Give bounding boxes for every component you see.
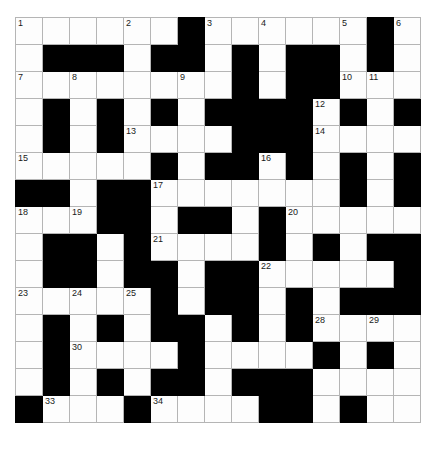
crossword-cell[interactable]: 21 bbox=[151, 234, 178, 261]
crossword-cell[interactable] bbox=[394, 72, 421, 99]
crossword-cell[interactable] bbox=[70, 99, 97, 126]
crossword-cell[interactable] bbox=[70, 18, 97, 45]
crossword-cell[interactable] bbox=[394, 396, 421, 423]
crossword-cell[interactable] bbox=[259, 72, 286, 99]
crossword-cell[interactable] bbox=[205, 396, 232, 423]
crossword-cell[interactable] bbox=[178, 396, 205, 423]
crossword-cell[interactable] bbox=[367, 126, 394, 153]
crossword-cell[interactable] bbox=[97, 18, 124, 45]
crossword-cell[interactable] bbox=[232, 207, 259, 234]
crossword-cell[interactable]: 3 bbox=[205, 18, 232, 45]
crossword-cell[interactable] bbox=[151, 126, 178, 153]
crossword-cell[interactable] bbox=[43, 72, 70, 99]
crossword-cell[interactable] bbox=[394, 342, 421, 369]
crossword-cell[interactable] bbox=[367, 180, 394, 207]
crossword-cell[interactable] bbox=[178, 288, 205, 315]
crossword-cell[interactable]: 10 bbox=[340, 72, 367, 99]
crossword-cell[interactable] bbox=[70, 126, 97, 153]
crossword-cell[interactable] bbox=[43, 288, 70, 315]
crossword-cell[interactable] bbox=[70, 153, 97, 180]
crossword-cell[interactable] bbox=[178, 126, 205, 153]
crossword-cell[interactable] bbox=[124, 45, 151, 72]
crossword-cell[interactable] bbox=[97, 396, 124, 423]
crossword-cell[interactable]: 16 bbox=[259, 153, 286, 180]
crossword-cell[interactable]: 29 bbox=[367, 315, 394, 342]
crossword-cell[interactable] bbox=[205, 180, 232, 207]
crossword-cell[interactable]: 33 bbox=[43, 396, 70, 423]
crossword-cell[interactable] bbox=[178, 234, 205, 261]
crossword-cell[interactable] bbox=[232, 18, 259, 45]
crossword-cell[interactable] bbox=[259, 288, 286, 315]
crossword-cell[interactable] bbox=[97, 153, 124, 180]
crossword-cell[interactable] bbox=[205, 315, 232, 342]
crossword-cell[interactable] bbox=[286, 180, 313, 207]
crossword-cell[interactable] bbox=[286, 234, 313, 261]
crossword-cell[interactable]: 20 bbox=[286, 207, 313, 234]
crossword-cell[interactable] bbox=[151, 342, 178, 369]
crossword-cell[interactable] bbox=[313, 261, 340, 288]
crossword-cell[interactable] bbox=[313, 18, 340, 45]
crossword-cell[interactable] bbox=[340, 207, 367, 234]
crossword-cell[interactable] bbox=[205, 126, 232, 153]
crossword-cell[interactable] bbox=[43, 153, 70, 180]
crossword-cell[interactable] bbox=[70, 396, 97, 423]
crossword-cell[interactable] bbox=[97, 234, 124, 261]
crossword-cell[interactable] bbox=[367, 369, 394, 396]
crossword-cell[interactable] bbox=[313, 369, 340, 396]
crossword-cell[interactable] bbox=[16, 315, 43, 342]
crossword-cell[interactable]: 7 bbox=[16, 72, 43, 99]
crossword-cell[interactable]: 23 bbox=[16, 288, 43, 315]
crossword-cell[interactable] bbox=[313, 396, 340, 423]
crossword-cell[interactable] bbox=[394, 315, 421, 342]
crossword-cell[interactable]: 1 bbox=[16, 18, 43, 45]
crossword-cell[interactable] bbox=[178, 153, 205, 180]
crossword-cell[interactable] bbox=[97, 288, 124, 315]
crossword-cell[interactable]: 6 bbox=[394, 18, 421, 45]
crossword-cell[interactable] bbox=[367, 99, 394, 126]
crossword-cell[interactable] bbox=[232, 180, 259, 207]
crossword-cell[interactable]: 2 bbox=[124, 18, 151, 45]
crossword-cell[interactable] bbox=[340, 315, 367, 342]
crossword-cell[interactable] bbox=[16, 261, 43, 288]
crossword-cell[interactable] bbox=[313, 180, 340, 207]
crossword-cell[interactable] bbox=[70, 315, 97, 342]
crossword-cell[interactable]: 28 bbox=[313, 315, 340, 342]
crossword-cell[interactable]: 14 bbox=[313, 126, 340, 153]
crossword-cell[interactable] bbox=[340, 45, 367, 72]
crossword-cell[interactable] bbox=[259, 45, 286, 72]
crossword-cell[interactable]: 9 bbox=[178, 72, 205, 99]
crossword-cell[interactable] bbox=[394, 45, 421, 72]
crossword-cell[interactable] bbox=[16, 45, 43, 72]
crossword-cell[interactable] bbox=[367, 261, 394, 288]
crossword-cell[interactable] bbox=[259, 342, 286, 369]
crossword-cell[interactable] bbox=[367, 153, 394, 180]
crossword-cell[interactable] bbox=[340, 261, 367, 288]
crossword-cell[interactable]: 5 bbox=[340, 18, 367, 45]
crossword-cell[interactable] bbox=[205, 45, 232, 72]
crossword-cell[interactable] bbox=[367, 396, 394, 423]
crossword-cell[interactable] bbox=[205, 342, 232, 369]
crossword-cell[interactable] bbox=[394, 207, 421, 234]
crossword-cell[interactable]: 30 bbox=[70, 342, 97, 369]
crossword-cell[interactable] bbox=[124, 99, 151, 126]
crossword-cell[interactable]: 25 bbox=[124, 288, 151, 315]
crossword-cell[interactable]: 19 bbox=[70, 207, 97, 234]
crossword-cell[interactable] bbox=[340, 342, 367, 369]
crossword-cell[interactable] bbox=[313, 207, 340, 234]
crossword-cell[interactable]: 4 bbox=[259, 18, 286, 45]
crossword-cell[interactable] bbox=[151, 18, 178, 45]
crossword-cell[interactable] bbox=[16, 342, 43, 369]
crossword-cell[interactable] bbox=[124, 369, 151, 396]
crossword-cell[interactable] bbox=[97, 342, 124, 369]
crossword-grid-container[interactable]: 1234567891011121314151617181920212223242… bbox=[15, 17, 421, 423]
crossword-cell[interactable] bbox=[286, 342, 313, 369]
crossword-cell[interactable] bbox=[151, 207, 178, 234]
crossword-cell[interactable] bbox=[313, 153, 340, 180]
crossword-cell[interactable] bbox=[286, 18, 313, 45]
crossword-cell[interactable] bbox=[205, 234, 232, 261]
crossword-cell[interactable] bbox=[124, 153, 151, 180]
crossword-cell[interactable] bbox=[313, 288, 340, 315]
crossword-cell[interactable] bbox=[286, 261, 313, 288]
crossword-cell[interactable] bbox=[124, 72, 151, 99]
crossword-cell[interactable]: 13 bbox=[124, 126, 151, 153]
